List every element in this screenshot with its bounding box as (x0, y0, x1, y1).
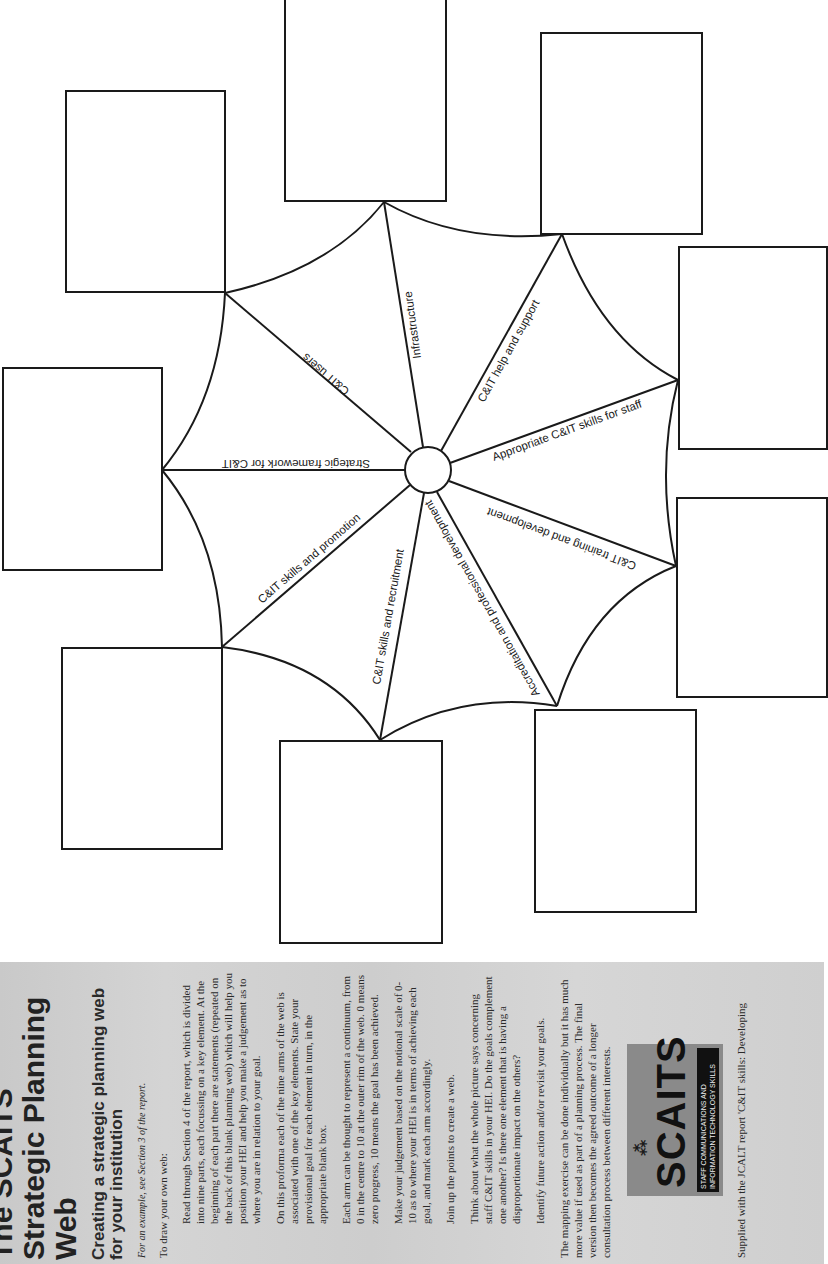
rim-arc (557, 566, 676, 706)
arm-label-training: C&IT training and development (484, 505, 637, 572)
instruction-step: Identify future action and/or revisit yo… (533, 972, 547, 1224)
rim-arc (384, 202, 562, 236)
rim-arc (562, 234, 678, 380)
arm-label-recruitment: C&IT skills and recruitment (370, 547, 406, 685)
document-subtitle: Creating a strategic planning web for yo… (90, 972, 126, 1260)
spoke-help (441, 234, 562, 451)
instruction-step: Think about what the whole picture says … (467, 972, 523, 1224)
arm-label-staff-skills: Appropriate C&IT skills for staff (491, 397, 644, 463)
rim-arc (162, 293, 225, 470)
arm-label-strategic-framework: Strategic framework for C&IT (222, 458, 370, 470)
rim-arc (162, 470, 222, 647)
rim-arc (225, 202, 384, 293)
instruction-step: On this proforma each of the nine arms o… (273, 972, 329, 1224)
instructions-panel: The SCAITS Strategic Planning Web Creati… (0, 962, 824, 1264)
instruction-step: Read through Section 4 of the report, wh… (179, 972, 263, 1224)
instruction-step: Each arm can be thought to represent a c… (339, 972, 381, 1224)
instruction-step: Join up the points to create a web. (443, 972, 457, 1224)
spoke-accreditation (437, 492, 557, 706)
web-centre (405, 447, 451, 493)
logo-figures-icon: ⁂ (631, 1140, 650, 1156)
arm-label-promotion: C&IT skills and promotion (255, 511, 362, 605)
arm-label-help-support: C&IT help and support (475, 297, 542, 404)
logo-tagline: STAFF COMMUNICATIONS AND INFORMATION TEC… (697, 1048, 719, 1192)
planning-web-diagram: Strategic framework for C&IT C&IT users … (0, 0, 824, 960)
logo-wordmark: SCAITS (651, 1035, 691, 1188)
arm-label-infrastructure: Infrastructure (402, 291, 423, 360)
instruction-step: Make your judgement based on the notiona… (391, 972, 433, 1224)
scaits-logo: ⁂ SCAITS STAFF COMMUNICATIONS AND INFORM… (627, 1044, 723, 1196)
example-note: For an example, see Section 3 of the rep… (136, 972, 147, 1258)
closing-text: The mapping exercise can be done individ… (557, 972, 613, 1258)
rim-arc (666, 380, 678, 566)
document-title: The SCAITS Strategic Planning Web (0, 972, 82, 1260)
intro-text: To draw your own web: (157, 972, 169, 1258)
rim-arc (380, 702, 557, 740)
spoke-training (449, 481, 676, 566)
rim-arc (222, 647, 380, 740)
arm-label-users: C&IT users (300, 351, 352, 398)
footer-text: Supplied with the JCALT report 'C&IT ski… (735, 972, 747, 1258)
